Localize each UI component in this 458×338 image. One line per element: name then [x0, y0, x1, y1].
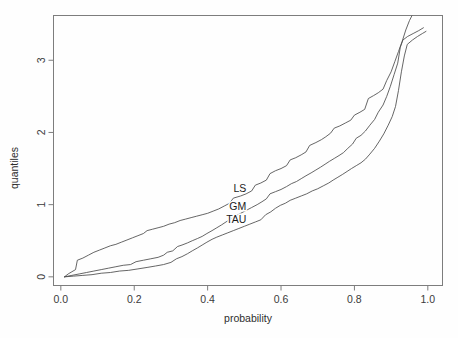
x-tick-label: 0.4: [200, 293, 215, 305]
x-axis-ticks: [61, 286, 428, 291]
curve-label-ls: LS: [234, 182, 247, 194]
x-tick-label: 0.6: [274, 293, 289, 305]
quantile-plot-figure: 0.00.20.40.60.81.0 0123 LSLSGMGMTAUTAU p…: [0, 0, 458, 338]
x-axis-title: probability: [224, 312, 273, 324]
y-axis-title: quantiles: [8, 147, 20, 189]
x-tick-label: 0.2: [127, 293, 142, 305]
curve-group: [65, 16, 426, 277]
y-tick-label: 1: [36, 202, 48, 208]
curve-tau: [65, 31, 426, 276]
y-axis-tick-labels: 0123: [36, 57, 48, 280]
curve-annotations: LSLSGMGMTAUTAU: [226, 182, 246, 224]
y-tick-label: 3: [36, 57, 48, 63]
x-tick-label: 1.0: [421, 293, 436, 305]
curve-label-gm: GM: [229, 200, 246, 212]
plot-canvas: 0.00.20.40.60.81.0 0123 LSLSGMGMTAUTAU p…: [0, 0, 458, 338]
x-tick-label: 0.8: [347, 293, 362, 305]
curve-gm: [65, 28, 424, 277]
x-tick-label: 0.0: [54, 293, 69, 305]
y-axis-ticks: [49, 60, 54, 277]
curve-ls: [65, 16, 413, 277]
curve-label-tau: TAU: [226, 213, 246, 225]
x-axis-tick-labels: 0.00.20.40.60.81.0: [54, 293, 436, 305]
y-tick-label: 0: [36, 274, 48, 280]
y-tick-label: 2: [36, 129, 48, 135]
